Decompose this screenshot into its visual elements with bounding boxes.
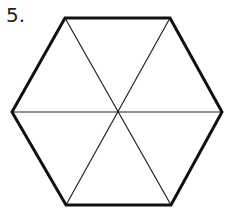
- worksheet-figure: 5.: [0, 0, 228, 213]
- hexagon-diagram: [0, 0, 228, 213]
- hexagon-diagonals: [12, 18, 222, 205]
